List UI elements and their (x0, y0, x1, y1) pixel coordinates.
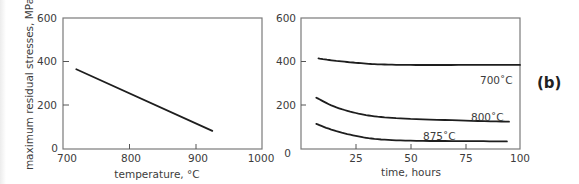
figure: maximum residual stresses, MPa 600 400 2… (0, 0, 579, 184)
right-xtick-25: 25 (349, 152, 362, 164)
right-chart: 600 400 200 0 25 50 75 100 time, hours 7… (276, 12, 530, 178)
right-ytick-0: 0 (284, 147, 291, 159)
left-ytick-200: 200 (37, 99, 57, 111)
curve-label-700c: 700˚C (480, 74, 513, 86)
right-ytick-600: 600 (276, 12, 296, 24)
right-xtick-75: 75 (459, 152, 472, 164)
left-ytick-400: 400 (37, 55, 57, 67)
left-x-axis-label: temperature, °C (114, 168, 199, 180)
curve-label-800c: 800˚C (471, 111, 504, 123)
left-plot-frame (63, 18, 262, 149)
left-xtick-800: 800 (121, 152, 141, 164)
right-ytick-200: 200 (276, 99, 296, 111)
left-xtick-1000: 1000 (248, 152, 275, 164)
curve-875c (316, 124, 507, 141)
right-xtick-100: 100 (510, 152, 530, 164)
curve-label-875c: 875˚C (423, 130, 456, 142)
panel-label: (b) (537, 74, 561, 92)
right-ytick-400: 400 (276, 55, 296, 67)
left-y-axis-label: maximum residual stresses, MPa (23, 0, 35, 170)
right-x-axis-label: time, hours (381, 166, 441, 178)
left-xtick-700: 700 (57, 152, 77, 164)
left-chart: maximum residual stresses, MPa 600 400 2… (23, 0, 274, 180)
left-xtick-900: 900 (188, 152, 208, 164)
right-xtick-50: 50 (404, 152, 417, 164)
left-ytick-600: 600 (37, 12, 57, 24)
stress-vs-temperature-line (76, 69, 212, 131)
curve-700c (319, 58, 521, 65)
